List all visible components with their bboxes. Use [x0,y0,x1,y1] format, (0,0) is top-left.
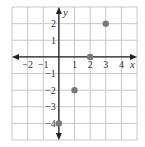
data-point [103,20,109,26]
data-point [56,120,62,126]
y-axis-up-arrow-icon [56,7,62,14]
y-axis-label: y [62,6,68,18]
coordinate-plane: −2−1123421−1−2−3−4 x y [0,0,145,147]
x-tick-label: 2 [88,59,93,70]
x-tick-label: −2 [22,59,33,70]
y-tick-label: −3 [45,101,56,112]
data-point [87,54,93,60]
x-axis-left-arrow-icon [12,54,19,60]
grid-lines [12,7,137,140]
y-axis-down-arrow-icon [56,133,62,140]
data-point [71,87,77,93]
y-tick-label: 2 [51,18,56,29]
y-tick-label: −4 [45,118,56,129]
x-tick-label: 3 [103,59,108,70]
x-tick-label: 1 [72,59,77,70]
x-axis-label: x [129,58,135,70]
y-tick-label: −1 [45,68,56,79]
y-tick-label: 1 [51,35,56,46]
x-tick-label: 4 [119,59,124,70]
y-tick-label: −2 [45,85,56,96]
